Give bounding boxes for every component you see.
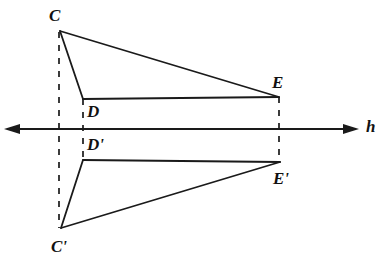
segment-DE bbox=[83, 97, 279, 99]
label-E-prime: E' bbox=[273, 170, 289, 187]
segment-DpEp bbox=[83, 160, 280, 162]
segment-CE bbox=[60, 31, 279, 97]
geometry-diagram: C D E D' E' C' h bbox=[0, 0, 389, 269]
segment-CpDp bbox=[61, 160, 83, 228]
triangle-CDE bbox=[60, 31, 279, 99]
label-D-prime: D' bbox=[87, 136, 104, 153]
dashed-connectors bbox=[59, 32, 279, 228]
label-h: h bbox=[366, 118, 375, 135]
segment-CD bbox=[60, 31, 83, 99]
axis-line-h bbox=[4, 124, 359, 134]
label-E: E bbox=[272, 74, 283, 91]
triangle-CprimeDprimeEprime bbox=[61, 160, 280, 228]
axis-arrow-right-icon bbox=[343, 124, 359, 134]
label-C: C bbox=[49, 7, 60, 24]
axis-arrow-left-icon bbox=[4, 124, 20, 134]
label-C-prime: C' bbox=[51, 238, 67, 255]
label-D: D bbox=[87, 103, 99, 120]
reflection-figure-svg bbox=[0, 0, 389, 269]
segment-CpEp bbox=[61, 162, 280, 228]
